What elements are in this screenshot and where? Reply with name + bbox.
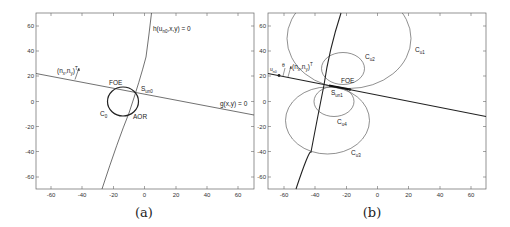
y-ticks-b [268, 26, 486, 177]
label-g: g(x,y) = 0 [220, 100, 248, 108]
x-tick-label: 40 [204, 192, 211, 198]
label-s-un1: Sun1 [331, 89, 343, 98]
label-aor: AOR [133, 113, 147, 120]
y-tick-label: -60 [257, 174, 266, 180]
circle-cu3 [286, 87, 370, 154]
figure: -60 -40 -20 0 20 40 60 60 40 20 0 -20 -4… [0, 0, 510, 227]
x-tick-label: -20 [342, 192, 351, 198]
x-tick-label: -60 [280, 192, 289, 198]
label-theta: θ [282, 62, 285, 68]
y-tick-label: -40 [257, 149, 266, 155]
plot-frame-b [268, 13, 486, 189]
y-tick-label: -60 [25, 174, 34, 180]
line-g [36, 74, 254, 116]
x-tick-labels-a: -60 -40 -20 0 20 40 60 [47, 192, 242, 198]
label-foe: FOE [109, 79, 123, 86]
caption-a: (a) [135, 205, 153, 220]
point-un0 [278, 74, 281, 77]
curve-h [102, 13, 152, 189]
curve-h-b [296, 13, 341, 189]
x-tick-label: 60 [235, 192, 242, 198]
x-ticks-b [284, 13, 471, 189]
x-tick-label: -40 [78, 192, 87, 198]
label-normal-b: (nx,ny)T [292, 62, 313, 72]
y-tick-label: 20 [27, 73, 34, 79]
y-tick-label: 40 [259, 48, 266, 54]
x-tick-label: -40 [311, 192, 320, 198]
x-tick-label: 0 [376, 192, 380, 198]
label-normal: (nx,ny)T [57, 66, 78, 76]
x-tick-label: 20 [173, 192, 180, 198]
y-tick-label: 0 [263, 99, 267, 105]
ellipse-c0 [108, 87, 139, 116]
x-ticks-a [51, 13, 238, 189]
label-foe-b: FOE [341, 77, 355, 84]
label-cu3: Cu3 [351, 149, 361, 158]
x-tick-label: 20 [405, 192, 412, 198]
caption-b: (b) [363, 205, 381, 220]
label-h: h(un0,x,y) = 0 [153, 25, 191, 34]
x-tick-label: 60 [468, 192, 475, 198]
x-tick-label: 0 [143, 192, 147, 198]
y-tick-label: -40 [25, 149, 34, 155]
y-tick-label: 0 [31, 99, 35, 105]
y-tick-label: 60 [259, 23, 266, 29]
y-tick-labels-a: 60 40 20 0 -20 -40 -60 [25, 23, 34, 180]
theta-arrow [283, 68, 285, 76]
y-tick-label: 20 [259, 73, 266, 79]
x-tick-labels-b: -60 -40 -20 0 20 40 60 [280, 192, 475, 198]
x-tick-label: -60 [47, 192, 56, 198]
y-tick-label: -20 [257, 124, 266, 130]
label-u-n0: un0 [270, 66, 277, 74]
panel-b: -60 -40 -20 0 20 40 60 60 40 20 0 -20 -4… [257, 0, 486, 220]
y-tick-label: 60 [27, 23, 34, 29]
point-foe [349, 88, 351, 90]
label-c0: C0 [100, 110, 108, 119]
label-cu1: Cu1 [415, 46, 425, 55]
x-tick-label: -20 [109, 192, 118, 198]
y-tick-label: -20 [25, 124, 34, 130]
label-cu2: Cu2 [365, 53, 375, 62]
label-s-un0: Sun0 [141, 85, 153, 94]
y-tick-labels-b: 60 40 20 0 -20 -40 -60 [257, 23, 266, 180]
x-tick-label: 40 [437, 192, 444, 198]
panel-a: -60 -40 -20 0 20 40 60 60 40 20 0 -20 -4… [25, 13, 254, 220]
label-cu4: Cu4 [337, 118, 347, 127]
y-tick-label: 40 [27, 48, 34, 54]
